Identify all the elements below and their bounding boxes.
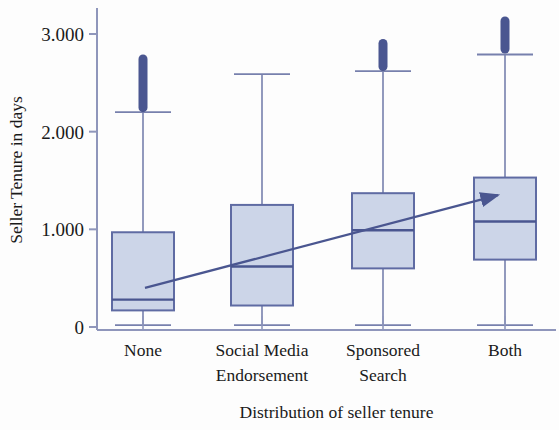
y-axis-title: Seller Tenure in days — [6, 96, 26, 244]
boxplot-group — [352, 39, 414, 330]
y-axis-tick-label: 2.000 — [41, 122, 84, 143]
y-axis-tick-label: 1.000 — [41, 219, 84, 240]
x-axis-title: Distribution of seller tenure — [240, 402, 434, 422]
box-iqr — [231, 205, 293, 306]
boxplot-group — [474, 16, 536, 330]
outlier-cluster — [501, 16, 510, 53]
boxplot-group — [112, 55, 174, 330]
outlier-cluster — [139, 55, 148, 113]
trend-arrow — [145, 195, 498, 288]
boxplot-group — [231, 74, 293, 330]
outlier-cluster — [379, 39, 388, 71]
boxplot-chart: 01.0002.0003.000Seller Tenure in daysNon… — [0, 0, 559, 430]
box-iqr — [474, 178, 536, 260]
chart-container: 01.0002.0003.000Seller Tenure in daysNon… — [0, 0, 559, 430]
y-axis-tick-label: 0 — [75, 317, 85, 338]
x-axis-category-label: Social Media — [216, 340, 309, 360]
x-axis-category-label: None — [124, 340, 162, 360]
x-axis-category-label: Endorsement — [216, 365, 308, 385]
x-axis-category-label: Sponsored — [346, 340, 420, 360]
x-axis-category-label: Both — [488, 340, 522, 360]
y-axis-tick-label: 3.000 — [41, 24, 84, 45]
x-axis-category-label: Search — [359, 365, 407, 385]
